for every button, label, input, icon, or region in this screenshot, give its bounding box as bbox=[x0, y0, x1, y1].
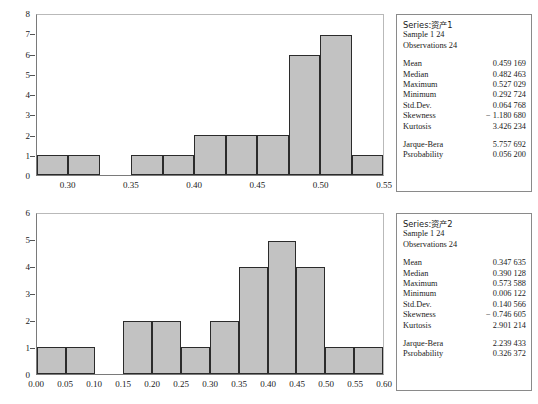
stat-value: 0.006 122 bbox=[493, 289, 526, 299]
stats-rows-2: Mean0.347 635Median0.390 128Maximum0.573… bbox=[403, 258, 526, 331]
x-tick-label: 0.60 bbox=[376, 379, 392, 389]
bar-cell bbox=[131, 15, 162, 175]
stat-row: Kurtosis3.426 234 bbox=[403, 122, 526, 132]
stats-tests-1: Jarque-Bera5.757 692Psrobability0.056 20… bbox=[403, 140, 526, 161]
y-tick-mark bbox=[30, 55, 35, 56]
stat-value: 0.347 635 bbox=[493, 258, 526, 268]
y-axis-2: 0123456 bbox=[0, 213, 36, 375]
bar-cell bbox=[37, 214, 66, 374]
y-axis-1: 012345678 bbox=[0, 14, 36, 176]
y-tick-mark bbox=[30, 294, 35, 295]
stat-value: 0.573 588 bbox=[493, 279, 526, 289]
stat-key: Mean bbox=[403, 59, 426, 69]
histogram-bar bbox=[296, 267, 325, 374]
bar-cell bbox=[289, 15, 320, 175]
x-tick-label: 0.40 bbox=[260, 379, 276, 389]
stat-value: 2.239 433 bbox=[493, 339, 526, 349]
stat-key: Kurtosis bbox=[403, 321, 435, 331]
y-tick-mark bbox=[30, 115, 35, 116]
x-tick-label: 0.25 bbox=[173, 379, 189, 389]
y-tick-mark bbox=[30, 136, 35, 137]
stat-row: Maximum0.573 588 bbox=[403, 279, 526, 289]
y-tick-mark bbox=[30, 34, 35, 35]
stat-key: Mean bbox=[403, 258, 426, 268]
plot-area-2 bbox=[36, 213, 384, 375]
x-tick-label: 0.55 bbox=[347, 379, 363, 389]
sample-label-2: Sample 1 24 bbox=[403, 229, 526, 239]
stat-key: Median bbox=[403, 269, 432, 279]
stat-value: 0.527 029 bbox=[493, 80, 526, 90]
stat-row: Jarque-Bera5.757 692 bbox=[403, 140, 526, 150]
x-tick-label: 0.05 bbox=[57, 379, 73, 389]
stat-value: 0.482 463 bbox=[493, 70, 526, 80]
y-tick-mark bbox=[30, 240, 35, 241]
bar-cell bbox=[95, 214, 124, 374]
x-tick-label: 0.55 bbox=[376, 180, 392, 190]
stat-key: Std.Dev. bbox=[403, 101, 436, 111]
x-tick-label: 0.35 bbox=[231, 379, 247, 389]
x-tick-label: 0.40 bbox=[186, 180, 202, 190]
stat-key: Jarque-Bera bbox=[403, 339, 447, 349]
stats-spacer bbox=[403, 132, 526, 140]
x-tick-label: 0.10 bbox=[86, 379, 102, 389]
stat-value: 0.056 200 bbox=[493, 150, 526, 160]
series-label-1: Series:资产1 bbox=[403, 20, 526, 30]
bar-cell bbox=[320, 15, 351, 175]
stat-value: 3.426 234 bbox=[493, 122, 526, 132]
histogram-bar bbox=[289, 55, 320, 175]
stat-row: Median0.482 463 bbox=[403, 70, 526, 80]
stat-row: Std.Dev.0.064 768 bbox=[403, 101, 526, 111]
histogram-bar bbox=[123, 321, 152, 374]
stat-row: Skewness− 0.746 605 bbox=[403, 310, 526, 320]
histogram-bar bbox=[131, 155, 162, 175]
histogram-report-page: 012345678 0.300.350.400.450.500.55 Serie… bbox=[0, 0, 538, 404]
y-tick-label: 6 bbox=[26, 209, 31, 218]
bar-cell bbox=[37, 15, 68, 175]
x-tick-label: 0.50 bbox=[313, 180, 329, 190]
stats-tests-2: Jarque-Bera2.239 433Psrobability0.326 37… bbox=[403, 339, 526, 360]
histogram-bar bbox=[210, 321, 239, 374]
panel-asset-1: 012345678 0.300.350.400.450.500.55 Serie… bbox=[0, 6, 538, 202]
bar-cell bbox=[257, 15, 288, 175]
histogram-bar bbox=[152, 321, 181, 374]
y-tick-mark bbox=[30, 75, 35, 76]
bar-cell bbox=[226, 15, 257, 175]
stat-key: Std.Dev. bbox=[403, 300, 436, 310]
stat-row: Mean0.347 635 bbox=[403, 258, 526, 268]
stats-spacer bbox=[403, 250, 526, 258]
stat-row: Median0.390 128 bbox=[403, 269, 526, 279]
stat-key: Psrobability bbox=[403, 150, 447, 160]
stat-key: Median bbox=[403, 70, 432, 80]
y-tick-mark bbox=[30, 267, 35, 268]
observations-label-2: Observations 24 bbox=[403, 240, 526, 250]
stat-key: Maximum bbox=[403, 80, 442, 90]
stat-value: 2.901 214 bbox=[493, 321, 526, 331]
y-tick-mark bbox=[30, 156, 35, 157]
statistics-box-1: Series:资产1 Sample 1 24 Observations 24 M… bbox=[396, 14, 532, 192]
x-tick-label: 0.15 bbox=[115, 379, 131, 389]
bar-cell bbox=[325, 214, 354, 374]
y-tick-label: 0 bbox=[26, 172, 31, 181]
x-tick-label: 0.35 bbox=[123, 180, 139, 190]
bar-series-1 bbox=[37, 15, 383, 175]
histogram-bar bbox=[268, 241, 297, 374]
bar-cell bbox=[210, 214, 239, 374]
x-tick-label: 0.20 bbox=[144, 379, 160, 389]
histogram-bar bbox=[354, 347, 383, 374]
x-tick-label: 0.30 bbox=[202, 379, 218, 389]
stat-value: 0.326 372 bbox=[493, 349, 526, 359]
bar-cell bbox=[163, 15, 194, 175]
stat-value: 0.390 128 bbox=[493, 269, 526, 279]
x-axis-2: 0.000.050.100.150.200.250.300.350.400.45… bbox=[36, 377, 384, 397]
stat-key: Jarque-Bera bbox=[403, 140, 447, 150]
stat-key: Psrobability bbox=[403, 349, 447, 359]
stat-row: Minimum0.292 724 bbox=[403, 90, 526, 100]
stat-key: Kurtosis bbox=[403, 122, 435, 132]
histogram-bar bbox=[181, 347, 210, 374]
x-tick-label: 0.00 bbox=[28, 379, 44, 389]
plot-area-1 bbox=[36, 14, 384, 176]
histogram-bar bbox=[37, 155, 68, 175]
stat-value: 5.757 692 bbox=[493, 140, 526, 150]
bar-series-2 bbox=[37, 214, 383, 374]
histogram-bar bbox=[194, 135, 225, 175]
